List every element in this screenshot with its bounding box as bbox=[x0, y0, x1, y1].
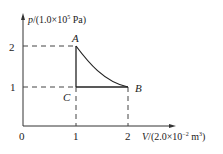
path-a-to-b-curve bbox=[76, 46, 128, 87]
x-axis-label: V/(2.0×10−2 m3) bbox=[142, 131, 205, 143]
point-label-c: C bbox=[63, 91, 71, 103]
y-tick-2: 2 bbox=[9, 41, 15, 53]
point-label-a: A bbox=[71, 32, 79, 44]
y-axis-label: p/(1.0×105 Pa) bbox=[27, 14, 86, 26]
pv-diagram: 2 1 0 1 2 A B C p/(1.0×105 Pa) V/(2.0×10… bbox=[0, 0, 223, 154]
x-tick-0: 0 bbox=[19, 130, 25, 142]
x-axis-arrow-icon bbox=[169, 124, 176, 128]
x-tick-1: 1 bbox=[73, 130, 79, 142]
x-tick-2: 2 bbox=[125, 130, 131, 142]
point-label-b: B bbox=[135, 82, 142, 94]
y-tick-1: 1 bbox=[10, 81, 16, 93]
y-axis-arrow-icon bbox=[21, 13, 25, 20]
